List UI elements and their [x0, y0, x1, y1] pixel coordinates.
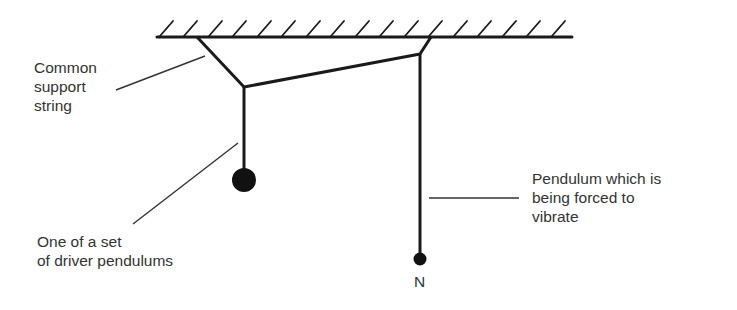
support-string-leader [116, 56, 205, 90]
driver-leader [133, 143, 238, 224]
ceiling-support [157, 21, 572, 37]
driver-pendulum [232, 87, 256, 192]
forced-pendulum-n [414, 54, 427, 266]
pendulum-n-bob [414, 253, 427, 266]
forced-pendulum-label: Pendulum which is being forced to vibrat… [532, 169, 661, 226]
driver-pendulum-label: One of a set of driver pendulums [37, 232, 173, 270]
driver-bob [232, 168, 256, 192]
ceiling-hatching [160, 21, 565, 36]
common-support-string [197, 37, 431, 87]
pendulum-n-label: N [414, 272, 425, 291]
support-string-label: Common support string [34, 58, 97, 115]
